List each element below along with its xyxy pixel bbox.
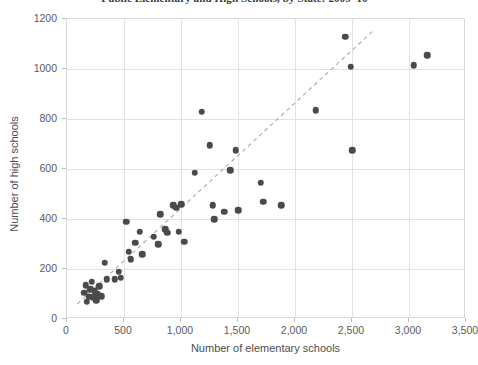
data-point xyxy=(175,228,182,235)
data-point xyxy=(342,33,349,40)
data-point xyxy=(96,283,103,290)
y-tick-mark xyxy=(62,268,66,269)
x-tick-label: 2,000 xyxy=(281,324,307,336)
y-tick-label: 0 xyxy=(51,312,57,324)
x-tick-mark xyxy=(408,318,409,322)
y-tick-label: 400 xyxy=(39,212,57,224)
data-point xyxy=(101,260,108,267)
y-tick-mark xyxy=(62,218,66,219)
data-point xyxy=(221,208,228,215)
x-tick-mark xyxy=(465,318,466,322)
data-point xyxy=(210,202,217,209)
x-tick-label: 1,500 xyxy=(224,324,250,336)
gridline-vertical xyxy=(295,19,296,317)
data-point xyxy=(181,238,188,245)
x-axis-title: Number of elementary schools xyxy=(66,342,465,354)
data-point xyxy=(88,278,95,285)
x-tick-label: 3,000 xyxy=(395,324,421,336)
data-point xyxy=(211,216,218,223)
y-tick-label: 1200 xyxy=(34,12,57,24)
data-point xyxy=(227,167,234,174)
x-tick-label: 500 xyxy=(114,324,132,336)
y-tick-label: 200 xyxy=(39,262,57,274)
data-point xyxy=(128,256,135,263)
gridline-horizontal xyxy=(67,119,464,120)
y-tick-mark xyxy=(62,318,66,319)
x-tick-mark xyxy=(123,318,124,322)
y-tick-label: 800 xyxy=(39,112,57,124)
data-point xyxy=(191,170,198,177)
x-tick-mark xyxy=(66,318,67,322)
x-tick-mark xyxy=(294,318,295,322)
data-point xyxy=(258,180,265,187)
data-point xyxy=(123,218,130,225)
x-tick-label: 2,500 xyxy=(338,324,364,336)
data-point xyxy=(117,275,124,282)
y-tick-mark xyxy=(62,168,66,169)
x-tick-label: 0 xyxy=(63,324,69,336)
data-point xyxy=(349,147,356,154)
data-point xyxy=(348,63,355,70)
data-point xyxy=(312,107,319,114)
x-tick-label: 1,000 xyxy=(167,324,193,336)
data-point xyxy=(278,202,285,209)
data-point xyxy=(125,248,132,255)
x-tick-mark xyxy=(237,318,238,322)
data-point xyxy=(132,240,139,247)
data-point xyxy=(150,233,157,240)
data-point xyxy=(157,211,164,218)
data-point xyxy=(424,52,431,59)
y-axis-title: Number of high schools xyxy=(8,74,20,274)
page-title: Public Elementary and High Schools, by S… xyxy=(0,0,469,4)
y-tick-mark xyxy=(62,118,66,119)
gridline-vertical xyxy=(124,19,125,317)
y-tick-mark xyxy=(62,18,66,19)
data-point xyxy=(235,207,242,214)
data-point xyxy=(137,228,144,235)
y-tick-label: 600 xyxy=(39,162,57,174)
data-point xyxy=(232,147,239,154)
data-point xyxy=(260,198,267,205)
data-point xyxy=(98,293,105,300)
y-tick-mark xyxy=(62,68,66,69)
y-tick-label: 1000 xyxy=(34,62,57,74)
data-point xyxy=(198,108,205,115)
x-tick-mark xyxy=(180,318,181,322)
x-tick-mark xyxy=(351,318,352,322)
x-tick-label: 3,500 xyxy=(452,324,478,336)
plot-area xyxy=(66,18,465,318)
data-point xyxy=(206,142,213,149)
data-point xyxy=(104,276,111,283)
gridline-horizontal xyxy=(67,69,464,70)
data-point xyxy=(178,201,185,208)
data-point xyxy=(139,251,146,258)
data-point xyxy=(164,230,171,237)
data-point xyxy=(155,241,162,248)
gridline-vertical xyxy=(181,19,182,317)
gridline-horizontal xyxy=(67,169,464,170)
gridline-horizontal xyxy=(67,269,464,270)
gridline-vertical xyxy=(238,19,239,317)
data-point xyxy=(410,62,417,69)
